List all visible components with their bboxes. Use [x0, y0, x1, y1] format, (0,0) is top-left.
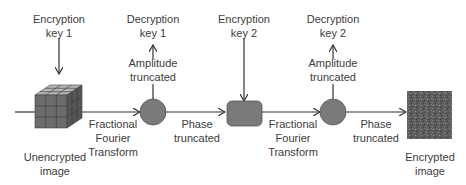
decryption-key-2-label: Decryption key 2: [303, 12, 363, 40]
phase-truncation-node-1: [140, 99, 166, 125]
encryption-key-2-label: Encryption key 2: [214, 12, 274, 40]
unencrypted-image-label: Unencrypted image: [22, 150, 88, 178]
phase-truncated-label-2: Phase truncated: [351, 117, 401, 145]
cube-icon: [35, 85, 82, 128]
phase-truncated-label-1: Phase truncated: [172, 117, 222, 145]
phase-truncation-node-2: [320, 99, 346, 125]
encrypted-image-label: Encrypted image: [398, 150, 462, 178]
amplitude-truncated-label-1: Amplitude truncated: [123, 56, 183, 84]
decryption-key-1-label: Decryption key 1: [123, 12, 183, 40]
encrypted-image-noise: [407, 91, 452, 139]
frft-label-1: Fractional Fourier Transform: [84, 117, 142, 159]
multiply-key2-node: [227, 101, 262, 126]
frft-label-2: Fractional Fourier Transform: [264, 117, 322, 159]
amplitude-truncated-label-2: Amplitude truncated: [303, 56, 363, 84]
encryption-key-1-label: Encryption key 1: [29, 12, 89, 40]
